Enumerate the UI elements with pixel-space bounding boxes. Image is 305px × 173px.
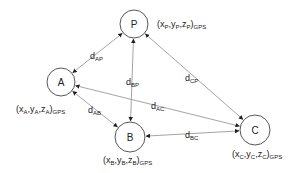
coord-label-p: (xP,yP,zP)GPS	[157, 19, 206, 30]
coord-label-c: (xC,yC,zC)GPS	[232, 149, 282, 160]
edge-ap	[73, 33, 123, 72]
node-p: P	[120, 10, 148, 38]
coord-label-b: (xB,yB,zB)GPS	[103, 155, 152, 166]
coord-label-a: (xA,yA,zA)GPS	[16, 104, 65, 115]
node-label: P	[131, 19, 138, 30]
node-label: C	[251, 125, 258, 136]
edge-label-ac: dAC	[151, 101, 165, 112]
node-b: B	[115, 122, 145, 152]
node-label: A	[58, 77, 65, 88]
gps-distance-diagram: PABC dAPdBPdCPdACdABdBC(xP,yP,zP)GPS(xA,…	[0, 0, 305, 173]
node-c: C	[240, 115, 270, 145]
edges	[73, 33, 243, 136]
edge-label-bc: dBC	[185, 130, 199, 141]
edge-label-ap: dAP	[90, 51, 103, 62]
node-label: B	[127, 132, 134, 143]
node-a: A	[47, 68, 75, 96]
edge-label-ab: dAB	[88, 105, 101, 116]
